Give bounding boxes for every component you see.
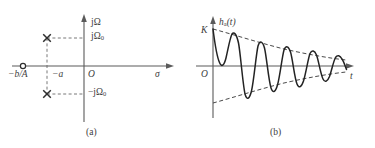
imaginary-axis-arrowhead [81, 14, 87, 22]
caption-a: (a) [86, 128, 97, 138]
origin-label-b: O [201, 70, 208, 80]
time-axis-label: t [350, 72, 353, 82]
panel-b-impulse-response-plot: ha(t) K O t (b) [188, 0, 375, 148]
sigma-a-label: −a [52, 70, 63, 80]
time-axis-arrowhead [346, 63, 354, 69]
imaginary-axis-label: jΩ [91, 18, 101, 28]
impulse-response-label: ha(t) [219, 18, 236, 28]
real-axis-arrowhead [166, 63, 174, 69]
real-axis-label: σ [155, 70, 160, 80]
omega-positive-label: jΩ0 [91, 32, 104, 42]
figure-container: jΩ jΩ0 −jΩ0 −b/A −a O σ (a) ha(t) K O [0, 0, 375, 148]
panel-b-svg [188, 0, 375, 148]
origin-label-a: O [88, 70, 95, 80]
peak-amplitude-label: K [201, 26, 207, 36]
zero-marker [20, 63, 25, 68]
panel-a-pole-zero-plot: jΩ jΩ0 −jΩ0 −b/A −a O σ (a) [0, 0, 188, 148]
zero-position-label: −b/A [8, 70, 28, 80]
amplitude-axis-arrowhead [210, 16, 216, 24]
damped-sinusoid-curve [213, 29, 347, 98]
omega-negative-label: −jΩ0 [88, 88, 106, 98]
caption-b: (b) [270, 128, 281, 138]
imaginary-axis-label-text: jΩ [91, 17, 101, 27]
